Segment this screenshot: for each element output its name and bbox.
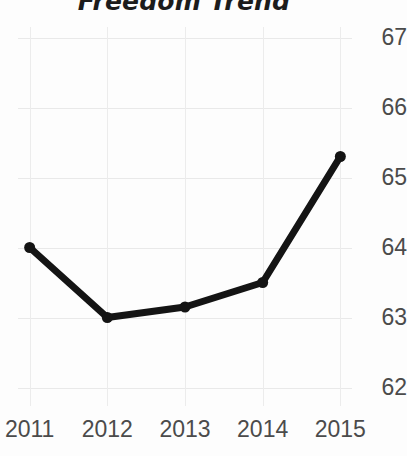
y-tick-label-65: 65 — [360, 166, 407, 189]
data-point-2013 — [180, 302, 191, 313]
chart-container: Freedom Trend 676665646362 2011201220132… — [0, 0, 407, 456]
x-axis-ticks: 20112012201320142015 — [0, 418, 368, 448]
x-tick-label-2011: 2011 — [0, 418, 70, 441]
line-series-freedom-trend — [18, 27, 352, 398]
series-polyline — [30, 157, 341, 318]
x-tick-label-2013: 2013 — [145, 418, 225, 441]
data-point-2014 — [257, 277, 268, 288]
data-point-2012 — [102, 312, 113, 323]
x-tick-label-2015: 2015 — [300, 418, 380, 441]
data-point-2011 — [24, 242, 35, 253]
x-tick-label-2014: 2014 — [223, 418, 303, 441]
chart-title: Freedom Trend — [0, 0, 368, 16]
x-tick-label-2012: 2012 — [67, 418, 147, 441]
plot-area — [18, 27, 352, 398]
data-point-2015 — [335, 151, 346, 162]
y-tick-label-67: 67 — [360, 26, 407, 49]
y-tick-label-63: 63 — [360, 306, 407, 329]
series-markers — [24, 151, 346, 323]
y-tick-label-62: 62 — [360, 376, 407, 399]
y-tick-label-66: 66 — [360, 96, 407, 119]
y-tick-label-64: 64 — [360, 236, 407, 259]
